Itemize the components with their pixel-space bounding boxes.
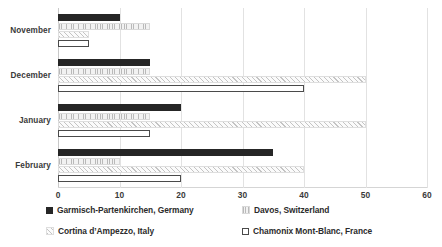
legend-label: Chamonix Mont-Blanc, France — [253, 226, 372, 236]
bar — [58, 130, 150, 137]
diagonal-hatch-swatch — [46, 227, 54, 235]
solid-dark-swatch — [46, 207, 53, 214]
legend-label: Garmisch-Partenkirchen, Germany — [57, 205, 194, 215]
bar-group — [58, 8, 427, 53]
x-tick-label: 40 — [299, 190, 308, 200]
category-label-november: November — [0, 26, 51, 35]
bar — [58, 166, 304, 173]
bar — [58, 14, 120, 21]
x-tick-label: 0 — [56, 190, 61, 200]
plot-area-wrapper: NovemberDecemberJanuaryFebruary — [0, 0, 442, 196]
category-label-december: December — [0, 71, 51, 80]
bar — [58, 23, 150, 30]
category-axis-labels: NovemberDecemberJanuaryFebruary — [0, 8, 54, 188]
bar — [58, 59, 150, 66]
legend-label: Cortina d’Ampezzo, Italy — [58, 226, 154, 236]
bar — [58, 40, 89, 47]
white-outline-swatch — [242, 228, 249, 235]
bar — [58, 121, 366, 128]
bar-group — [58, 53, 427, 98]
legend-item: Cortina d’Ampezzo, Italy — [46, 226, 154, 236]
gridline — [427, 8, 428, 188]
bar-chart: NovemberDecemberJanuaryFebruary 01020304… — [0, 0, 442, 247]
x-tick-label: 20 — [176, 190, 185, 200]
plot-area — [58, 8, 427, 188]
bar-group — [58, 143, 427, 188]
bar — [58, 175, 181, 182]
x-tick-label: 60 — [422, 190, 431, 200]
x-tick-label: 10 — [115, 190, 124, 200]
bar-group — [58, 98, 427, 143]
bar — [58, 31, 89, 38]
x-tick-label: 50 — [361, 190, 370, 200]
bar — [58, 113, 150, 120]
bar — [58, 104, 181, 111]
bar — [58, 149, 273, 156]
legend-label: Davos, Switzerland — [254, 205, 329, 215]
x-tick-label: 30 — [238, 190, 247, 200]
value-axis-tick-labels: 0102030405060 — [58, 190, 427, 204]
chart-legend: Garmisch-Partenkirchen, GermanyDavos, Sw… — [46, 205, 438, 245]
bar — [58, 158, 120, 165]
bar — [58, 68, 150, 75]
bar — [58, 76, 366, 83]
bar — [58, 85, 304, 92]
category-label-february: February — [0, 161, 51, 170]
category-label-january: January — [0, 116, 51, 125]
light-hatch-swatch — [242, 206, 250, 214]
legend-item: Garmisch-Partenkirchen, Germany — [46, 205, 194, 215]
legend-item: Davos, Switzerland — [242, 205, 329, 215]
legend-item: Chamonix Mont-Blanc, France — [242, 226, 372, 236]
